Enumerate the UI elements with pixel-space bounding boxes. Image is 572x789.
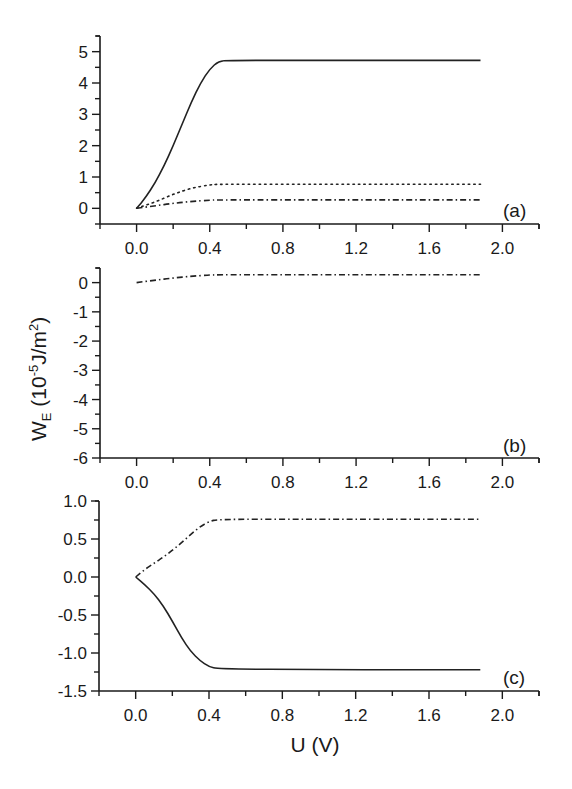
y-title-unit: J/m [27,331,50,365]
x-tick-label: 1.2 [344,706,368,725]
y-title-exp2: 2 [26,324,41,331]
y-title-open: (10 [27,376,50,412]
x-tick-label: 0.8 [271,239,295,258]
series-dash-dot-line [137,275,481,283]
series-solid-line [137,60,481,208]
x-tick-label: 2.0 [491,239,515,258]
x-tick-label: 0.4 [198,473,222,492]
y-tick-label: -5 [73,420,88,439]
y-tick-label: -1 [73,303,88,322]
x-tick-label: 1.2 [344,239,368,258]
svg-text:WE (10-5J/m2): WE (10-5J/m2) [26,317,54,441]
series-dotted-line [137,184,481,208]
x-tick-label: 1.6 [417,706,441,725]
series-dash-dot-line [137,200,481,208]
y-tick-label: 0 [79,199,88,218]
x-tick-label: 0.0 [125,239,149,258]
y-tick-label: 0 [79,274,88,293]
x-tick-label: 2.0 [491,473,515,492]
x-axis-title: U (V) [291,733,340,756]
y-tick-label: 0.5 [63,530,87,549]
x-tick-label: 0.0 [125,473,149,492]
y-tick-label: -1.0 [58,644,87,663]
y-title-close: ) [27,317,50,324]
y-axis-title: WE (10-5J/m2) [26,317,54,441]
y-title-sub: E [39,412,54,421]
x-tick-label: 0.8 [271,473,295,492]
y-tick-label: 0.0 [63,568,87,587]
y-tick-label: -0.5 [58,606,87,625]
y-tick-label: -3 [73,361,88,380]
y-tick-label: 1.0 [63,492,87,511]
series-dash-dot-line [136,519,481,577]
panel-c: 0.00.40.81.21.62.01.00.50.0-0.5-1.0-1.5 [58,492,539,725]
x-tick-label: 0.4 [197,706,221,725]
y-tick-label: -4 [73,391,88,410]
figure: 0.00.40.81.21.62.0012345 0.00.40.81.21.6… [0,0,572,789]
y-tick-label: 4 [79,74,88,93]
y-tick-label: -6 [73,449,88,468]
y-tick-label: -1.5 [58,682,87,701]
x-tick-label: 1.6 [417,239,441,258]
y-tick-label: -2 [73,332,88,351]
y-tick-label: 2 [79,137,88,156]
x-tick-label: 1.6 [417,473,441,492]
x-tick-label: 0.4 [198,239,222,258]
panel-a: 0.00.40.81.21.62.0012345 [79,36,539,258]
x-tick-label: 1.2 [344,473,368,492]
y-tick-label: 1 [79,168,88,187]
panel-b-label: (b) [503,435,526,456]
y-title-main: W [27,421,50,441]
x-tick-label: 0.8 [271,706,295,725]
y-tick-label: 3 [79,105,88,124]
panel-c-label: (c) [503,667,525,688]
x-tick-label: 2.0 [491,706,515,725]
y-tick-label: 5 [79,43,88,62]
x-tick-label: 0.0 [124,706,148,725]
y-title-exp: -5 [26,365,41,377]
panel-b: 0.00.40.81.21.62.00-1-2-3-4-5-6 [73,268,539,492]
series-solid-line [136,577,481,670]
panel-a-label: (a) [503,200,526,221]
